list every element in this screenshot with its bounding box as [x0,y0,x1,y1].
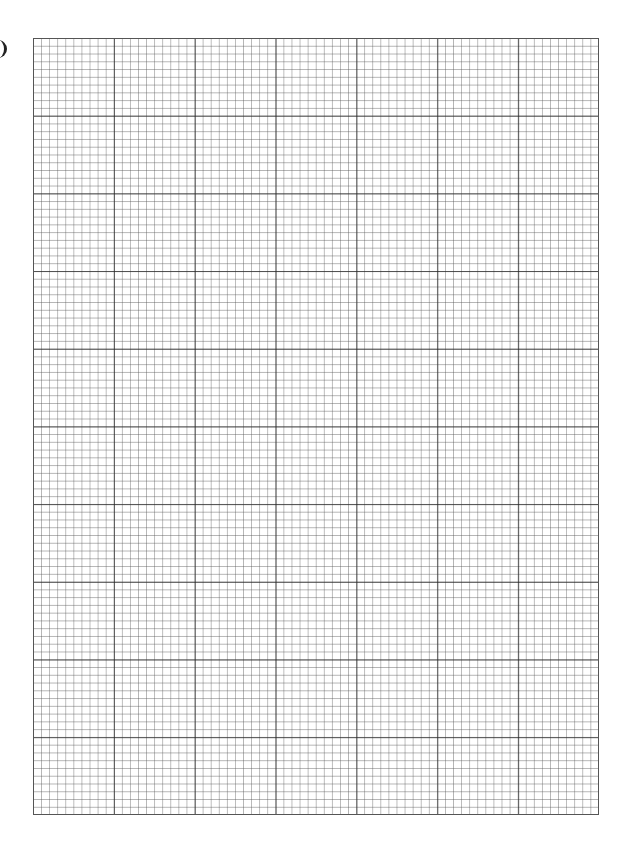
left-edge-mark [0,40,7,58]
graph-paper-grid: graph paper [33,38,599,815]
